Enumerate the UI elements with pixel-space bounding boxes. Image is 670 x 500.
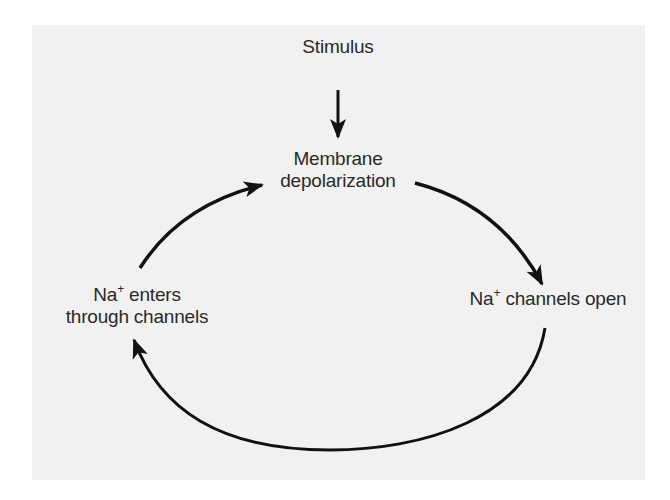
- node-stimulus: Stimulus: [288, 36, 388, 58]
- channels-open-rest: channels open: [500, 288, 626, 309]
- node-membrane-depolarization: Membrane depolarization: [248, 148, 428, 192]
- depolarization-line1: Membrane: [248, 148, 428, 170]
- node-na-channels-open: Na+ channels open: [448, 288, 648, 310]
- depolarization-line2: depolarization: [248, 170, 428, 192]
- arrow-channels-open-to-na-enters: [134, 328, 545, 450]
- node-na-enters: Na+ enters through channels: [52, 284, 222, 328]
- arrow-na-enters-to-depolarization: [140, 185, 262, 268]
- na-enters-rest: enters: [124, 284, 181, 305]
- na-enters-line1: Na+ enters: [52, 284, 222, 306]
- channels-open-prefix: Na: [470, 288, 494, 309]
- na-enters-charge: +: [117, 282, 124, 296]
- na-enters-line2: through channels: [52, 306, 222, 328]
- arrow-depolarization-to-channels-open: [415, 183, 542, 284]
- na-enters-prefix: Na: [93, 284, 117, 305]
- stimulus-label: Stimulus: [302, 36, 373, 57]
- arrows-layer: [0, 0, 670, 500]
- channels-open-charge: +: [493, 286, 500, 300]
